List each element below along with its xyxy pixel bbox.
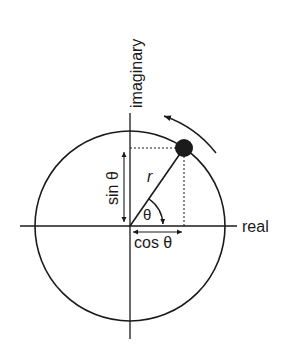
sin-label: sin θ [104,171,121,205]
point-dot [175,139,193,157]
unit-circle-diagram: imaginary real r θ sin θ cos θ [0,0,289,352]
angle-label: θ [143,206,151,223]
imaginary-axis-label: imaginary [128,39,145,108]
real-axis-label: real [242,218,269,235]
radius-line [130,148,184,226]
cos-label: cos θ [134,234,172,251]
radius-label: r [147,168,153,185]
